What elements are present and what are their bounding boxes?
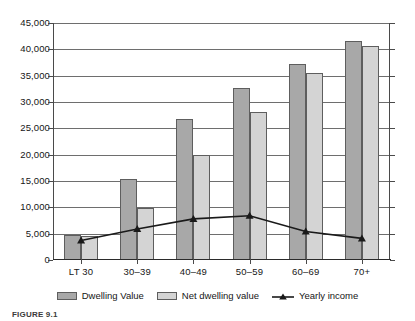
x-axis-tick — [306, 259, 307, 264]
x-axis-baseline — [53, 259, 391, 260]
y-axis-tick — [48, 128, 53, 129]
y-axis-tick-right — [390, 102, 395, 103]
x-tick-label: LT 30 — [53, 266, 109, 278]
y-axis-tick-right — [390, 260, 395, 261]
y-tick-label: 45,000 — [2, 18, 50, 28]
y-axis-tick — [48, 207, 53, 208]
bar-group — [120, 23, 154, 260]
legend-label: Yearly income — [299, 290, 358, 302]
y-tick-label: 25,000 — [2, 123, 50, 133]
bar-group — [345, 23, 379, 260]
bar-net-dwelling-value — [250, 112, 267, 260]
bar-net-dwelling-value — [81, 236, 98, 260]
y-axis-tick-right — [390, 23, 395, 24]
bar-dwelling-value — [233, 88, 250, 260]
legend-label: Net dwelling value — [182, 290, 259, 302]
y-tick-label: 15,000 — [2, 176, 50, 186]
x-axis-tick — [250, 259, 251, 264]
y-axis-tick-right — [390, 49, 395, 50]
x-axis-tick — [362, 259, 363, 264]
chart-plot: 05,00010,00015,00020,00025,00030,00035,0… — [0, 0, 415, 285]
bar-dwelling-value — [120, 179, 137, 260]
bar-net-dwelling-value — [362, 46, 379, 260]
bar-net-dwelling-value — [306, 73, 323, 260]
y-tick-label: 20,000 — [2, 150, 50, 160]
y-axis-tick — [48, 23, 53, 24]
legend-net-dwelling-value-swatch — [157, 292, 177, 300]
chart-legend: Dwelling ValueNet dwelling valueYearly i… — [0, 288, 415, 304]
y-axis-tick-right — [390, 234, 395, 235]
y-tick-label: 0 — [2, 255, 50, 265]
y-axis-tick — [48, 102, 53, 103]
x-axis: LT 3030–3940–4950–5960–6970+ — [53, 266, 390, 282]
x-axis-tick — [193, 259, 194, 264]
y-tick-label: 35,000 — [2, 71, 50, 81]
x-tick-label: 50–59 — [222, 266, 278, 278]
legend-label: Dwelling Value — [82, 290, 144, 302]
legend-item[interactable]: Net dwelling value — [157, 290, 259, 302]
legend-line-triangle-icon — [272, 292, 294, 300]
figure-container: 05,00010,00015,00020,00025,00030,00035,0… — [0, 0, 415, 321]
x-tick-label: 70+ — [334, 266, 390, 278]
y-axis-tick-right — [390, 207, 395, 208]
bar-dwelling-value — [289, 64, 306, 260]
x-axis-tick — [81, 259, 82, 264]
bar-group — [176, 23, 210, 260]
x-tick-label: 60–69 — [278, 266, 334, 278]
y-axis-tick — [48, 76, 53, 77]
legend-item[interactable]: Yearly income — [272, 290, 358, 302]
y-axis-tick — [48, 181, 53, 182]
y-axis: 05,00010,00015,00020,00025,00030,00035,0… — [0, 0, 50, 285]
y-axis-tick — [48, 49, 53, 50]
figure-caption: FIGURE 9.1 — [12, 310, 58, 320]
y-tick-label: 5,000 — [2, 229, 50, 239]
y-axis-tick — [48, 260, 53, 261]
y-axis-tick-right — [390, 128, 395, 129]
bar-net-dwelling-value — [193, 155, 210, 260]
y-tick-label: 30,000 — [2, 97, 50, 107]
x-tick-label: 30–39 — [109, 266, 165, 278]
y-axis-tick — [48, 234, 53, 235]
legend-dwelling-value-swatch — [57, 292, 77, 300]
bar-dwelling-value — [64, 235, 81, 260]
bar-net-dwelling-value — [137, 208, 154, 260]
y-axis-tick — [48, 155, 53, 156]
x-axis-tick — [137, 259, 138, 264]
bar-dwelling-value — [345, 41, 362, 260]
y-axis-tick-right — [390, 76, 395, 77]
bar-group — [233, 23, 267, 260]
bar-group — [289, 23, 323, 260]
bar-groups — [53, 23, 390, 260]
bar-group — [64, 23, 98, 260]
bar-dwelling-value — [176, 119, 193, 260]
x-tick-label: 40–49 — [165, 266, 221, 278]
y-axis-tick-right — [390, 181, 395, 182]
y-tick-label: 40,000 — [2, 44, 50, 54]
y-axis-tick-right — [390, 155, 395, 156]
y-tick-label: 10,000 — [2, 202, 50, 212]
legend-item[interactable]: Dwelling Value — [57, 290, 144, 302]
